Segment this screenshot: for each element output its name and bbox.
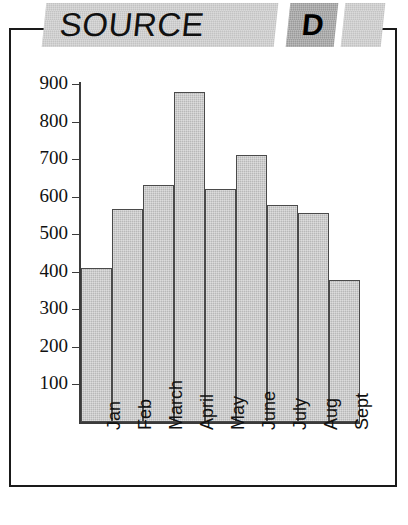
- y-tick: [72, 272, 80, 273]
- bar: [205, 189, 236, 422]
- x-axis-label: March: [166, 380, 187, 430]
- bar: [174, 92, 205, 422]
- x-axis-label: Feb: [135, 399, 156, 430]
- bar: [236, 155, 267, 422]
- x-axis-label: Sept: [352, 393, 373, 430]
- x-axis-label: Aug: [321, 398, 342, 430]
- x-axis-label: June: [259, 391, 280, 430]
- y-tick-label: 600: [40, 185, 69, 207]
- bar: [81, 268, 112, 422]
- y-tick-label: 200: [40, 335, 69, 357]
- x-axis-label: July: [290, 398, 311, 430]
- y-tick: [72, 234, 80, 235]
- bar: [298, 213, 329, 422]
- y-tick: [72, 122, 80, 123]
- x-axis-label: Jan: [104, 401, 125, 430]
- y-tick: [72, 84, 80, 85]
- y-tick-label: 800: [40, 110, 69, 132]
- y-tick-label: 900: [40, 72, 69, 94]
- y-tick: [72, 309, 80, 310]
- bar: [267, 205, 298, 422]
- y-tick-label: 100: [40, 372, 69, 394]
- y-tick: [72, 159, 80, 160]
- y-tick-label: 500: [40, 222, 69, 244]
- x-axis-label: May: [228, 396, 249, 430]
- y-tick-label: 300: [40, 297, 69, 319]
- bar: [112, 209, 143, 422]
- y-tick: [72, 197, 80, 198]
- y-tick: [72, 347, 80, 348]
- y-tick-label: 700: [40, 147, 69, 169]
- x-axis-label: April: [197, 394, 218, 430]
- y-tick: [72, 384, 80, 385]
- bar-chart: 900800700600500400300200100 JanFebMarchA…: [0, 0, 408, 525]
- y-tick-label: 400: [40, 260, 69, 282]
- page-root: SOURCE D 900800700600500400300200100 Jan…: [0, 0, 408, 525]
